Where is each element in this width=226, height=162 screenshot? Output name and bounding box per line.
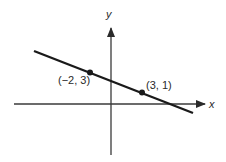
- point-label-2: (3, 1): [146, 79, 172, 91]
- coordinate-diagram: x y (−2, 3) (3, 1): [0, 0, 226, 162]
- point-marker-2: [139, 90, 145, 96]
- point-label-1: (−2, 3): [58, 74, 90, 86]
- x-axis-label: x: [208, 98, 215, 110]
- y-axis-label: y: [105, 8, 113, 20]
